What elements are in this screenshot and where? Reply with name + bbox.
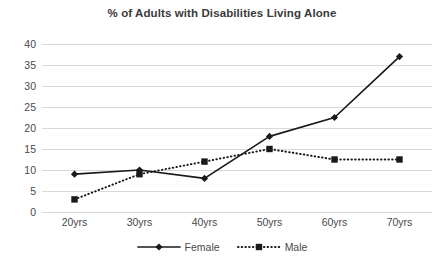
y-axis-tick-label: 0 [2, 206, 36, 218]
data-point-marker [266, 146, 272, 152]
y-axis-tick-label: 30 [2, 80, 36, 92]
legend-swatch-diamond-icon [137, 241, 181, 253]
y-axis-tick-label: 25 [2, 101, 36, 113]
y-axis-tick-label: 40 [2, 38, 36, 50]
plot-area [42, 44, 432, 212]
data-point-marker [71, 171, 78, 178]
y-axis-tick-label: 35 [2, 59, 36, 71]
x-axis-tick-label: 30yrs [127, 216, 153, 228]
x-axis-tick-label: 50yrs [257, 216, 283, 228]
chart-title: % of Adults with Disabilities Living Alo… [0, 7, 444, 19]
series-layer [42, 44, 432, 212]
legend-item-female[interactable]: Female [137, 241, 220, 253]
y-axis-labels: 0510152025303540 [0, 44, 36, 212]
data-point-marker [396, 156, 402, 162]
x-axis-tick-label: 70yrs [387, 216, 413, 228]
x-axis-tick-label: 20yrs [62, 216, 88, 228]
gridline [42, 212, 432, 213]
legend-label: Female [185, 241, 220, 253]
chart-container: % of Adults with Disabilities Living Alo… [0, 0, 444, 266]
x-axis-tick-label: 60yrs [322, 216, 348, 228]
data-point-marker [71, 196, 77, 202]
x-axis-tick-label: 40yrs [192, 216, 218, 228]
data-point-marker [201, 158, 207, 164]
y-axis-tick-label: 5 [2, 185, 36, 197]
data-point-marker [136, 171, 142, 177]
chart-legend: FemaleMale [0, 241, 444, 253]
y-axis-tick-label: 20 [2, 122, 36, 134]
data-point-marker [331, 156, 337, 162]
legend-swatch-square-icon [237, 241, 281, 253]
legend-label: Male [285, 241, 308, 253]
y-axis-tick-label: 10 [2, 164, 36, 176]
legend-item-male[interactable]: Male [237, 241, 308, 253]
y-axis-tick-label: 15 [2, 143, 36, 155]
x-axis-labels: 20yrs30yrs40yrs50yrs60yrs70yrs [42, 216, 432, 236]
